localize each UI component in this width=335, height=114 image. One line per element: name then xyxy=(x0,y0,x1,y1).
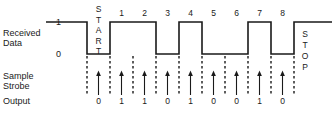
output-value: 1 xyxy=(257,96,262,106)
output-value: 1 xyxy=(188,96,193,106)
strobe-arrow-head xyxy=(165,71,170,77)
strobe-arrow-head xyxy=(142,71,147,77)
start-bit-char: S xyxy=(96,4,102,14)
sample-strobe-label-line2: Strobe xyxy=(3,81,30,91)
strobe-arrow-head xyxy=(119,71,124,77)
received-data-waveform xyxy=(46,22,332,54)
stop-bit-char: S xyxy=(302,29,308,39)
strobe-arrow-head xyxy=(234,71,239,77)
bit-number-label: 3 xyxy=(165,8,170,18)
output-value: 0 xyxy=(211,96,216,106)
start-bit-char: T xyxy=(96,46,101,56)
timing-diagram-canvas: Received Data 1 0 Sample Strobe Output 1… xyxy=(0,0,335,114)
stop-bit-char: P xyxy=(302,62,308,72)
output-value: 0 xyxy=(165,96,170,106)
output-value: 1 xyxy=(119,96,124,106)
timing-diagram: Received Data 1 0 Sample Strobe Output 1… xyxy=(0,0,335,114)
strobe-arrow-head xyxy=(188,71,193,77)
bit-number-labels: 12345678 xyxy=(119,8,285,18)
bit-number-label: 6 xyxy=(234,8,239,18)
stop-bit-label: STOP xyxy=(302,29,309,72)
strobe-arrow-head xyxy=(211,71,216,77)
bit-number-label: 7 xyxy=(257,8,262,18)
output-value: 0 xyxy=(280,96,285,106)
received-data-label-line2: Data xyxy=(3,38,22,48)
sample-strobe-arrows xyxy=(96,71,285,96)
strobe-arrow-head xyxy=(257,71,262,77)
level-low-label: 0 xyxy=(56,49,61,59)
start-bit-label: START xyxy=(95,4,101,56)
strobe-arrow-head xyxy=(96,71,101,77)
strobe-arrow-head xyxy=(280,71,285,77)
received-data-label-line1: Received xyxy=(3,28,41,38)
bit-number-label: 4 xyxy=(188,8,193,18)
bit-number-label: 1 xyxy=(119,8,124,18)
start-bit-char: A xyxy=(96,25,102,35)
output-label: Output xyxy=(3,96,31,106)
start-bit-char: R xyxy=(95,36,101,46)
stop-bit-char: O xyxy=(302,51,309,61)
output-value-labels: 011010010 xyxy=(96,96,285,106)
start-bit-char: T xyxy=(96,15,101,25)
bit-number-label: 8 xyxy=(280,8,285,18)
output-value: 0 xyxy=(234,96,239,106)
bit-number-label: 2 xyxy=(142,8,147,18)
sample-strobe-label-line1: Sample xyxy=(3,71,34,81)
output-value: 0 xyxy=(96,96,101,106)
bit-number-label: 5 xyxy=(211,8,216,18)
output-value: 1 xyxy=(142,96,147,106)
stop-bit-char: T xyxy=(302,40,307,50)
